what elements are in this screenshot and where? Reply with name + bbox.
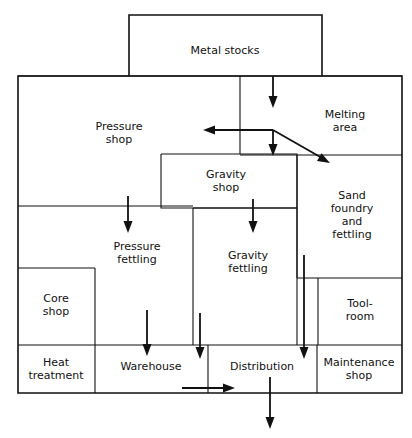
flow-arrow-pressurefettling-to-warehouse: [143, 310, 152, 356]
room-outline-gravity-shop: [161, 154, 297, 208]
flow-arrow-gravity-to-fettling: [249, 199, 258, 233]
diagram-canvas: [0, 0, 412, 438]
flow-arrow-melting-to-pressure: [203, 126, 273, 135]
flow-arrow-melting-to-gravity: [269, 130, 278, 156]
flow-arrow-distribution-out: [266, 377, 275, 429]
flow-arrow-melting-to-sand: [273, 130, 330, 163]
factory-layout-diagram: Metal stocks Pressure shop Melting area …: [0, 0, 412, 438]
room-outline-metal-stocks: [129, 15, 322, 76]
flow-arrow-pressure-to-fettling: [124, 196, 133, 233]
flow-arrows: [124, 76, 331, 429]
room-outlines: [18, 15, 402, 393]
flow-arrow-gravityfettling-to-warehouse: [196, 313, 205, 359]
flow-arrow-stocks-to-melting: [269, 76, 278, 108]
flow-arrow-sand-to-distribution: [300, 255, 309, 359]
